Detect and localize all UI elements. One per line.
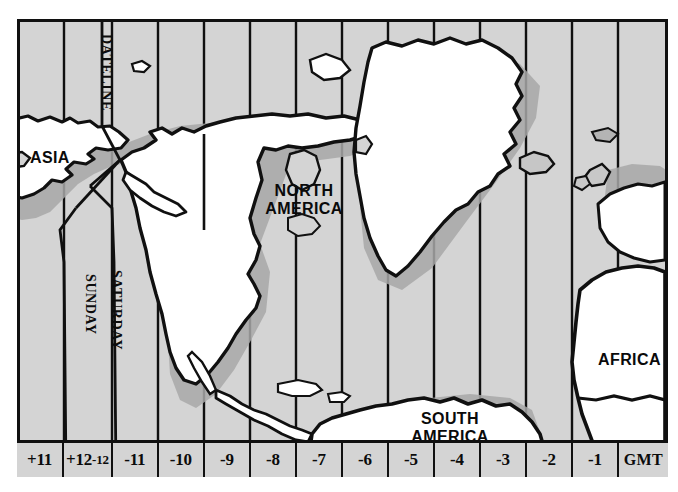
zone-cell-minus7[interactable]: -7 [297, 443, 343, 477]
sunday-label: SUNDAY [82, 274, 98, 335]
zone-label-minus8: -8 [266, 450, 280, 470]
north-america-label-line2: AMERICA [252, 200, 356, 218]
zone-label-minus1: -1 [588, 450, 602, 470]
zone-label-minus2: -2 [542, 450, 556, 470]
zone-label-minus9: -9 [220, 450, 234, 470]
south-america-label-line1: SOUTH [398, 410, 502, 428]
dateline-label: DATELINE [98, 34, 114, 111]
zone-cell-minus10[interactable]: -10 [159, 443, 205, 477]
zone-cell-minus8[interactable]: -8 [251, 443, 297, 477]
africa-label: AFRICA [598, 351, 661, 369]
time-zone-map-figure: DATELINE SATURDAY SUNDAY ASIA NORTH AMER… [0, 0, 678, 492]
zone-cell-minus5[interactable]: -5 [389, 443, 435, 477]
time-zone-legend-row: +11 +12 -12 -11 -10 -9 -8 -7 -6 -5 -4 [17, 440, 668, 477]
zone-cell-minus1[interactable]: -1 [573, 443, 619, 477]
zone-cell-plus11[interactable]: +11 [17, 443, 64, 477]
map-graphics [20, 22, 665, 474]
zone-cell-minus2[interactable]: -2 [527, 443, 573, 477]
map-frame: DATELINE SATURDAY SUNDAY ASIA NORTH AMER… [17, 19, 668, 477]
north-america-label: NORTH AMERICA [252, 182, 356, 218]
zone-label-minus6: -6 [358, 450, 372, 470]
zone-cell-minus4[interactable]: -4 [435, 443, 481, 477]
zone-label-minus7: -7 [312, 450, 326, 470]
saturday-label: SATURDAY [108, 270, 124, 350]
hispaniola-island [328, 392, 350, 402]
zone-label-minus5: -5 [404, 450, 418, 470]
zone-cell-minus6[interactable]: -6 [343, 443, 389, 477]
zone-cell-plus12-minus12[interactable]: +12 -12 [64, 443, 113, 477]
zone-cell-minus3[interactable]: -3 [481, 443, 527, 477]
north-america-label-line1: NORTH [252, 182, 356, 200]
zone-cell-gmt[interactable]: GMT [619, 443, 668, 477]
iceland-landmass [520, 152, 554, 174]
zone-label-minus12: -12 [92, 452, 109, 468]
zone-label-minus3: -3 [496, 450, 510, 470]
zone-label-minus4: -4 [450, 450, 464, 470]
asia-label: ASIA [30, 149, 70, 167]
zone-label-minus11: -11 [124, 450, 145, 470]
zone-label-plus12: +12 [66, 450, 92, 470]
zone-cell-minus11[interactable]: -11 [113, 443, 159, 477]
zone-label-gmt: GMT [624, 451, 663, 469]
zone-cell-minus9[interactable]: -9 [205, 443, 251, 477]
zone-label-plus11: +11 [27, 450, 52, 470]
zone-label-minus10: -10 [170, 450, 192, 470]
